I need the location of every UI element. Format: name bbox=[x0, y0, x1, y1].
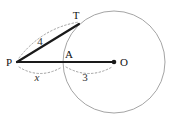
center-point-dot bbox=[112, 60, 117, 65]
geometry-diagram: P T A O 4 x 3 bbox=[0, 0, 172, 122]
measure-label-radius-length: 3 bbox=[82, 71, 88, 83]
point-label-t: T bbox=[73, 9, 80, 21]
point-label-o: O bbox=[120, 56, 128, 68]
point-label-a: A bbox=[65, 48, 73, 60]
measure-label-tangent-length: 4 bbox=[37, 35, 43, 47]
point-label-p: P bbox=[6, 56, 12, 68]
measure-arc-pa bbox=[19, 67, 62, 74]
measure-label-external-distance: x bbox=[34, 71, 40, 83]
diagram-canvas: P T A O 4 x 3 bbox=[0, 0, 172, 122]
measure-arc-ao bbox=[66, 67, 112, 74]
